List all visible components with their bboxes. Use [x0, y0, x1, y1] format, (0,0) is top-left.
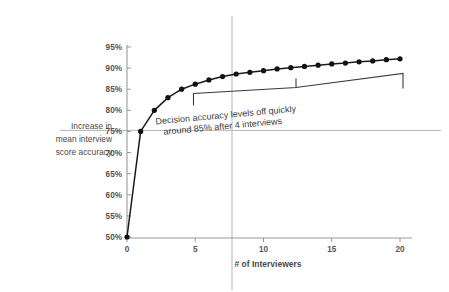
data-point-marker [247, 70, 252, 75]
data-point-marker [370, 58, 375, 63]
data-point-marker [124, 234, 129, 239]
data-point-marker [165, 95, 170, 100]
chart-background [0, 0, 449, 292]
data-point-marker [152, 108, 157, 113]
y-axis-title-line2: mean interview [56, 134, 113, 144]
y-axis-title-line3: score accuracy [56, 147, 113, 157]
data-point-marker [220, 74, 225, 79]
data-point-marker [193, 82, 198, 87]
x-axis-tick-label: 5 [193, 245, 198, 254]
data-point-marker [206, 77, 211, 82]
data-point-marker [138, 129, 143, 134]
x-axis-title: # of Interviewers [234, 259, 301, 269]
y-axis-tick-label: 55% [106, 212, 123, 221]
data-point-marker [302, 64, 307, 69]
y-axis-tick-label: 95% [106, 43, 123, 52]
x-axis-tick-label: 0 [125, 245, 130, 254]
chart-container: 50%55%60%65%70%75%80%85%90%95% 05101520 … [0, 0, 449, 292]
y-axis-tick-label: 60% [106, 191, 123, 200]
y-axis-tick-label: 65% [106, 170, 123, 179]
data-point-marker [261, 68, 266, 73]
y-axis-title-line1: Increase in [71, 121, 112, 131]
data-point-marker [343, 60, 348, 65]
x-axis-tick-label: 15 [327, 245, 337, 254]
interview-accuracy-line-chart: 50%55%60%65%70%75%80%85%90%95% 05101520 … [0, 0, 449, 292]
data-point-marker [397, 56, 402, 61]
data-point-marker [384, 57, 389, 62]
x-axis-tick-label: 10 [259, 245, 269, 254]
y-axis-tick-label: 80% [106, 106, 123, 115]
y-axis-tick-label: 50% [106, 233, 123, 242]
data-point-marker [356, 59, 361, 64]
data-point-marker [179, 87, 184, 92]
x-axis-tick-label: 20 [395, 245, 405, 254]
data-point-marker [329, 61, 334, 66]
data-point-marker [275, 66, 280, 71]
y-axis-tick-label: 85% [106, 85, 123, 94]
data-point-marker [288, 65, 293, 70]
data-point-marker [234, 71, 239, 76]
y-axis-tick-label: 90% [106, 64, 123, 73]
data-point-marker [316, 63, 321, 68]
